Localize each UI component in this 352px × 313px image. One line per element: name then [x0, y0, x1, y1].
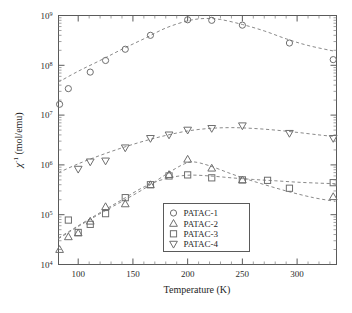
- x-tick-label: 150: [126, 269, 140, 279]
- data-point: [87, 69, 93, 75]
- data-point: [65, 86, 71, 92]
- legend-label: PATAC-1: [184, 208, 218, 218]
- trend-line-patac-4: [59, 128, 336, 173]
- data-point: [56, 246, 64, 253]
- x-tick-label: 200: [181, 269, 195, 279]
- data-point: [239, 123, 247, 130]
- x-axis-tick-labels: 100150200250300: [71, 269, 304, 279]
- inverse-susceptibility-plot: 100150200250300 104105106107108109 Tempe…: [0, 0, 352, 313]
- legend-label: PATAC-2: [184, 219, 218, 229]
- data-point: [165, 132, 173, 139]
- y-tick-label: 109: [40, 9, 52, 21]
- data-point: [286, 185, 292, 191]
- data-point: [184, 155, 192, 162]
- series-patac-4: [74, 123, 337, 173]
- data-point: [56, 101, 62, 107]
- data-point: [102, 158, 110, 165]
- x-axis-title: Temperature (K): [164, 284, 231, 296]
- data-point: [330, 57, 336, 63]
- legend-label: PATAC-3: [184, 229, 219, 239]
- legend-label: PATAC-4: [184, 239, 219, 249]
- y-tick-label: 106: [40, 159, 52, 171]
- y-tick-label: 104: [40, 258, 52, 270]
- trend-line-patac-1: [59, 18, 336, 82]
- series-patac-1: [56, 17, 336, 108]
- y-tick-label: 105: [40, 208, 52, 220]
- data-point: [209, 17, 215, 23]
- x-tick-label: 100: [71, 269, 85, 279]
- svg-text:χ-1 (mol/emu): χ-1 (mol/emu): [12, 112, 25, 168]
- data-point: [102, 57, 108, 63]
- data-point: [121, 145, 129, 152]
- data-point: [208, 164, 216, 171]
- x-tick-label: 300: [290, 269, 304, 279]
- y-tick-label: 108: [40, 59, 52, 71]
- chart-legend: PATAC-1PATAC-2PATAC-3PATAC-4: [164, 204, 250, 252]
- x-tick-label: 250: [236, 269, 250, 279]
- y-axis-title: χ-1 (mol/emu): [12, 112, 25, 168]
- chart-figure: 100150200250300 104105106107108109 Tempe…: [0, 0, 352, 313]
- data-point: [239, 22, 245, 28]
- y-axis-tick-labels: 104105106107108109: [40, 9, 52, 270]
- data-point: [286, 40, 292, 46]
- y-tick-label: 107: [40, 109, 52, 121]
- svg-text:Temperature (K): Temperature (K): [164, 284, 231, 296]
- data-point: [65, 217, 71, 223]
- data-point: [147, 32, 153, 38]
- data-point: [329, 193, 337, 200]
- data-point: [74, 166, 82, 173]
